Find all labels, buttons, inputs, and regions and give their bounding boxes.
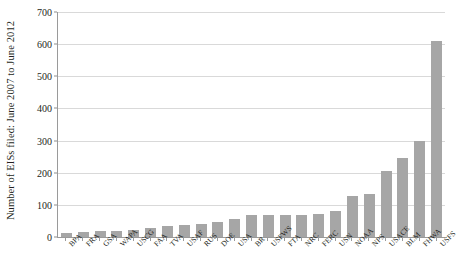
x-axis-tick-mark	[301, 238, 302, 241]
x-axis-tick-mark	[318, 238, 319, 241]
x-axis-tick-mark	[419, 238, 420, 241]
x-axis-tick-mark	[99, 238, 100, 241]
bar	[414, 141, 425, 237]
y-axis-tick-label: 0	[47, 232, 52, 243]
y-axis-tick-label: 500	[37, 71, 52, 82]
x-axis-tick-mark	[150, 238, 151, 241]
x-axis-tick-mark	[436, 238, 437, 241]
y-axis-title: Number of EISs filed: June 2007 to June …	[0, 0, 22, 240]
x-axis-tick-mark	[335, 238, 336, 241]
x-axis-tick-mark	[402, 238, 403, 241]
y-axis-tick-label: 600	[37, 39, 52, 50]
x-axis-tick-mark	[251, 238, 252, 241]
bar	[431, 41, 442, 237]
y-axis-tick-labels: 0100200300400500600700	[20, 0, 57, 245]
x-axis-tick-mark	[183, 238, 184, 241]
x-axis-tick-mark	[351, 238, 352, 241]
x-axis-tick-labels: BPAFRAGSAWAPAUSCGFAATVAUSAFRUSDOEUSABRUS…	[57, 238, 444, 274]
x-axis-tick-mark	[368, 238, 369, 241]
bar	[263, 215, 274, 238]
x-axis-tick-mark	[65, 238, 66, 241]
x-axis-tick-mark	[385, 238, 386, 241]
x-axis-tick-mark	[200, 238, 201, 241]
x-axis-tick-mark	[116, 238, 117, 241]
x-axis-tick-mark	[217, 238, 218, 241]
y-axis-tick-label: 700	[37, 7, 52, 18]
bar	[381, 171, 392, 237]
x-axis-tick-mark	[82, 238, 83, 241]
bars-layer	[58, 12, 445, 237]
x-axis-tick-mark	[166, 238, 167, 241]
y-axis-tick-label: 400	[37, 103, 52, 114]
x-axis-tick-mark	[284, 238, 285, 241]
y-axis-title-label: Number of EISs filed: June 2007 to June …	[6, 20, 17, 219]
x-axis-tick-mark	[267, 238, 268, 241]
bar	[61, 233, 72, 237]
x-axis-tick-mark	[133, 238, 134, 241]
y-axis-tick-label: 200	[37, 167, 52, 178]
y-axis-tick-label: 100	[37, 199, 52, 210]
y-axis-tick-label: 300	[37, 135, 52, 146]
x-axis-tick-mark	[234, 238, 235, 241]
plot-area	[57, 12, 445, 238]
